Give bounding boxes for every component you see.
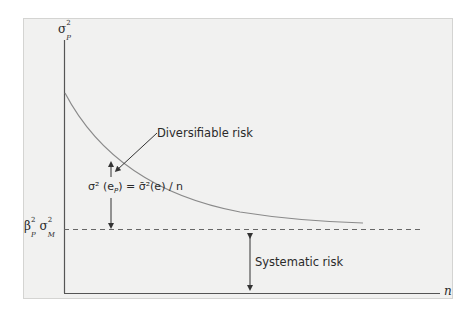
y-axis-label: σ2P (58, 22, 71, 44)
portfolio-variance-curve (65, 93, 363, 223)
diversifiable-risk-formula: σ² (eP) = σ̄²(e) / n (88, 180, 183, 195)
risk-diagram (0, 0, 475, 315)
diversifiable-risk-label: Diversifiable risk (157, 126, 253, 140)
systematic-level-label: β2P σ2M (24, 219, 55, 241)
systematic-risk-label: Systematic risk (255, 255, 343, 269)
x-axis-label: n (444, 284, 452, 298)
diversifiable-risk-pointer-arrow (117, 133, 157, 170)
